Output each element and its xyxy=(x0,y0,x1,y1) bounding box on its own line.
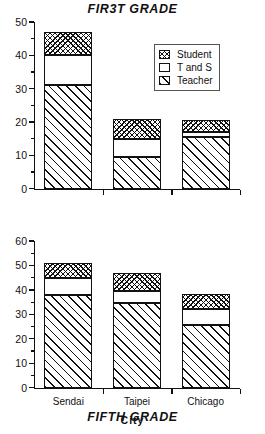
bar-segment-teacher xyxy=(182,137,230,189)
y-tick-major xyxy=(29,240,34,241)
y-tick-major xyxy=(29,265,34,266)
x-tick-label: Chicago xyxy=(187,396,224,407)
x-tick-label: Taipei xyxy=(124,396,150,407)
y-axis-line-bottom xyxy=(34,241,35,389)
bar-segment-t-and-s xyxy=(113,291,161,303)
legend-swatch-student-icon xyxy=(159,50,170,59)
bar-segment-student xyxy=(113,119,161,139)
y-tick-label: 40 xyxy=(15,285,27,296)
bar-segment-student xyxy=(44,263,92,278)
bar-segment-t-and-s xyxy=(113,139,161,157)
y-tick-minor xyxy=(31,277,34,278)
bar-segment-teacher xyxy=(44,85,92,188)
y-tick-label: 10 xyxy=(15,358,27,369)
y-tick-minor xyxy=(31,350,34,351)
y-tick-major xyxy=(29,363,34,364)
legend-label-student: Student xyxy=(177,50,211,60)
y-tick-minor xyxy=(31,171,34,172)
bar-segment-t-and-s xyxy=(182,309,230,325)
y-tick-major xyxy=(29,121,34,122)
bar-segment-t-and-s xyxy=(182,132,230,137)
y-tick-label: 40 xyxy=(15,50,27,61)
y-tick-minor xyxy=(31,138,34,139)
y-tick-minor xyxy=(31,375,34,376)
bar-segment-student xyxy=(182,120,230,132)
x-axis-line-top xyxy=(34,189,240,190)
x-tick xyxy=(103,389,104,394)
y-tick-label: 60 xyxy=(15,236,27,247)
y-tick-major xyxy=(29,314,34,315)
x-tick xyxy=(171,389,172,394)
y-tick-major xyxy=(29,155,34,156)
y-tick-minor xyxy=(31,105,34,106)
y-tick-major xyxy=(29,387,34,388)
legend-item-teacher: Teacher xyxy=(159,74,213,87)
y-tick-label: 20 xyxy=(15,333,27,344)
y-tick-label: 20 xyxy=(15,117,27,128)
legend-swatch-teacher-icon xyxy=(159,76,170,85)
y-tick-label: 0 xyxy=(21,183,27,194)
y-tick-major xyxy=(29,188,34,189)
bar-segment-teacher xyxy=(113,303,161,387)
bar-segment-student xyxy=(182,294,230,310)
stacked-bar xyxy=(44,22,92,189)
chart-panel-first-grade: FIR3T GRADE 01020304050 Student T and S … xyxy=(0,0,265,205)
y-tick-minor xyxy=(31,326,34,327)
bar-segment-t-and-s xyxy=(44,278,92,295)
y-tick-major xyxy=(29,338,34,339)
bar-segment-student xyxy=(44,32,92,55)
bar-segment-teacher xyxy=(44,295,92,388)
y-tick-minor xyxy=(31,302,34,303)
y-tick-minor xyxy=(31,253,34,254)
y-tick-major xyxy=(29,55,34,56)
x-axis-title: City xyxy=(0,414,265,426)
x-tick xyxy=(103,190,104,195)
y-tick-major xyxy=(29,289,34,290)
y-tick-label: 10 xyxy=(15,150,27,161)
legend-item-student: Student xyxy=(159,48,213,61)
legend-label-teacher: Teacher xyxy=(177,76,213,86)
bar-segment-t-and-s xyxy=(44,55,92,85)
y-tick-label: 50 xyxy=(15,17,27,28)
x-tick xyxy=(171,190,172,195)
chart-title-first-grade: FIR3T GRADE xyxy=(0,2,265,16)
bar-segment-teacher xyxy=(182,325,230,387)
y-tick-major xyxy=(29,21,34,22)
y-tick-label: 30 xyxy=(15,309,27,320)
stacked-bar xyxy=(113,241,161,388)
stacked-bar-figure: FIR3T GRADE 01020304050 Student T and S … xyxy=(0,0,265,434)
legend-swatch-t-and-s-icon xyxy=(159,63,170,72)
x-tick-label: Sendai xyxy=(53,396,84,407)
y-tick-label: 0 xyxy=(21,382,27,393)
y-tick-label: 30 xyxy=(15,83,27,94)
stacked-bar xyxy=(44,241,92,388)
bar-segment-teacher xyxy=(113,157,161,189)
legend-item-t-and-s: T and S xyxy=(159,61,213,74)
chart-legend: Student T and S Teacher xyxy=(154,44,220,91)
y-tick-minor xyxy=(31,71,34,72)
stacked-bar xyxy=(182,241,230,388)
y-tick-minor xyxy=(31,38,34,39)
legend-label-t-and-s: T and S xyxy=(177,63,212,73)
y-axis-line-top xyxy=(34,22,35,190)
x-tick xyxy=(240,190,241,195)
y-tick-label: 50 xyxy=(15,260,27,271)
bar-segment-student xyxy=(113,273,161,291)
x-axis-line-bottom xyxy=(34,388,240,389)
x-tick xyxy=(240,389,241,394)
y-tick-major xyxy=(29,88,34,89)
plot-area-fifth-grade: 0102030405060 SendaiTaipeiChicago xyxy=(34,241,240,389)
